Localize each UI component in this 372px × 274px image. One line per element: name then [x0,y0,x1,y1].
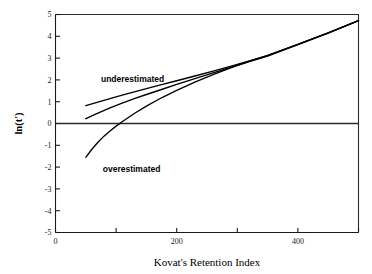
y-tick-label: -2 [45,163,52,172]
x-tick-label: 0 [54,237,58,246]
annotation-underestimated: underestimated [101,74,164,84]
data-curve-lower-curve [86,21,359,158]
chart-page: -5-4-3-2-10123450200400underestimatedove… [0,0,372,274]
retention-index-chart: -5-4-3-2-10123450200400underestimatedove… [0,0,372,274]
y-tick-label: 4 [48,32,52,41]
y-tick-label: -3 [45,185,52,194]
data-curve-upper-curve [86,21,359,106]
x-tick-label: 400 [292,237,304,246]
y-tick-label: 1 [48,98,52,107]
y-tick-label: -1 [45,141,52,150]
x-tick-label: 200 [171,237,183,246]
y-tick-label: 0 [48,119,52,128]
x-axis-title: Kovat's Retention Index [154,256,261,268]
data-curve-middle-curve [86,21,359,119]
y-tick-label: 2 [48,76,52,85]
y-tick-label: -5 [45,228,52,237]
y-tick-label: -4 [45,207,52,216]
annotation-overestimated: overestimated [103,164,161,174]
y-tick-label: 5 [48,10,52,19]
y-tick-label: 3 [48,54,52,63]
y-axis-title: ln(t') [13,112,25,135]
